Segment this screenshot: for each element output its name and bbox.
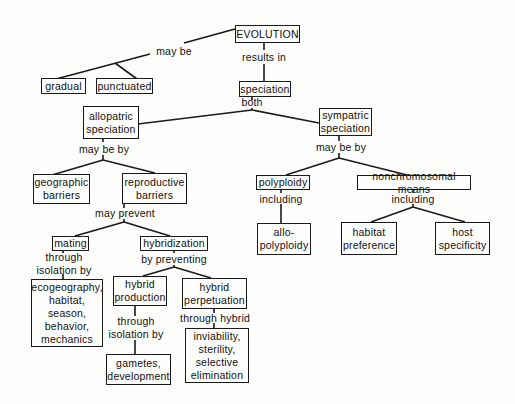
node-inviability: inviability, sterility, selective elimin… bbox=[185, 328, 249, 383]
label-may-prevent: may prevent bbox=[92, 207, 158, 220]
label-allopatric-may-be-by: may be by bbox=[76, 143, 132, 156]
label-through-hybrid: through hybrid bbox=[180, 312, 250, 325]
label-sympatric-may-be-by: may be by bbox=[313, 141, 369, 154]
label-mating-through-isolation-by: through isolation by bbox=[34, 251, 94, 277]
node-host-specificity: host specificity bbox=[435, 222, 490, 255]
node-hybrid-production: hybrid production bbox=[113, 276, 167, 306]
node-hybrid-perpetuation: hybrid perpetuation bbox=[182, 278, 247, 309]
node-gametes-development: gametes, development bbox=[106, 354, 171, 385]
node-punctuated: punctuated bbox=[96, 78, 153, 94]
node-habitat-preference: habitat preference bbox=[341, 222, 397, 255]
label-production-through-isolation-by: through isolation by bbox=[106, 315, 166, 341]
node-hybridization: hybridization bbox=[140, 236, 208, 251]
label-by-preventing: by preventing bbox=[138, 253, 210, 266]
node-ecogeography: ecogeography, habitat, season, behavior,… bbox=[31, 279, 103, 347]
node-allopatric-speciation: allopatric speciation bbox=[83, 106, 139, 139]
concept-map-canvas: EVOLUTION gradual punctuated speciation … bbox=[0, 0, 515, 404]
node-reproductive-barriers: reproductive barriers bbox=[122, 173, 187, 204]
label-polyploidy-including: including bbox=[258, 193, 304, 206]
node-polyploidy: polyploidy bbox=[256, 175, 310, 190]
label-nonchromosomal-including: including bbox=[390, 193, 436, 206]
node-evolution: EVOLUTION bbox=[235, 25, 300, 43]
label-results-in: results in bbox=[236, 51, 292, 64]
node-geographic-barriers: geographic barriers bbox=[33, 174, 90, 204]
label-may-be: may be bbox=[152, 45, 196, 58]
node-mating: mating bbox=[52, 236, 89, 251]
node-nonchromosomal-means: nonchromosomal means bbox=[357, 175, 471, 190]
label-both: both bbox=[240, 96, 264, 109]
node-speciation: speciation bbox=[239, 81, 291, 97]
node-gradual: gradual bbox=[41, 78, 86, 94]
node-allopolyploidy: allo- polyploidy bbox=[257, 223, 311, 255]
node-sympatric-speciation: sympatric speciation bbox=[319, 108, 372, 136]
